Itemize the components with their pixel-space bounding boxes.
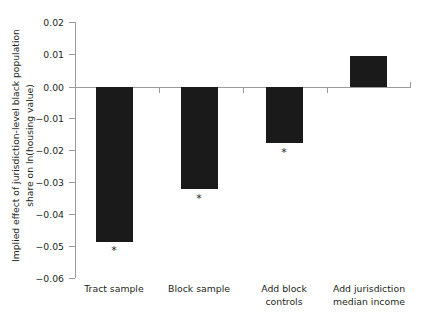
y-axis-tick-label: 0.00 <box>43 82 64 93</box>
significance-marker-add-block-controls: * <box>281 147 287 158</box>
x-axis-tick <box>243 88 244 93</box>
bar-add-jurisdiction-median-income <box>350 56 387 87</box>
y-axis-tick <box>69 150 75 151</box>
y-axis-tick <box>69 278 75 279</box>
category-label-line: Add block <box>240 283 328 296</box>
y-axis-title-line-1: Implied effect of jurisdiction-level bla… <box>9 29 23 262</box>
y-axis-tick-label: 0.02 <box>43 17 64 28</box>
y-axis-tick <box>69 214 75 215</box>
x-axis-category-label-tract-sample: Tract sample <box>69 283 159 296</box>
x-axis-category-label-add-block-controls: Add block controls <box>240 283 328 308</box>
y-axis-tick-label: −0.06 <box>36 273 65 284</box>
bar-add-block-controls <box>266 87 303 143</box>
bar-block-sample <box>181 87 218 189</box>
y-axis-tick-label: −0.02 <box>36 145 65 156</box>
y-axis-tick <box>69 54 75 55</box>
bar-tract-sample <box>96 87 133 242</box>
x-axis-category-label-add-jurisdiction-median-income: Add jurisdiction median income <box>317 283 421 308</box>
category-label-line: Tract sample <box>69 283 159 296</box>
y-axis-tick <box>69 182 75 183</box>
y-axis-tick-label: −0.04 <box>36 209 65 220</box>
x-axis-end-tick <box>410 82 411 88</box>
significance-marker-tract-sample: * <box>111 245 117 256</box>
y-axis-spine <box>75 22 76 278</box>
category-label-line: controls <box>240 296 328 309</box>
category-label-line: median income <box>317 296 421 309</box>
significance-marker-block-sample: * <box>196 193 202 204</box>
x-axis-tick <box>327 88 328 93</box>
x-axis-category-label-block-sample: Block sample <box>154 283 244 296</box>
category-label-line: Add jurisdiction <box>317 283 421 296</box>
y-axis-tick-label: −0.05 <box>36 241 65 252</box>
y-axis-tick-label: −0.01 <box>36 113 65 124</box>
y-axis-tick-label: −0.03 <box>36 177 65 188</box>
category-label-line: Block sample <box>154 283 244 296</box>
y-axis-tick-label: 0.01 <box>43 49 64 60</box>
y-axis-tick <box>69 246 75 247</box>
y-axis-tick <box>69 22 75 23</box>
y-axis-tick <box>69 118 75 119</box>
y-axis-title-line-2: share on ln(housing value) <box>22 29 36 262</box>
x-axis-tick <box>159 88 160 93</box>
bar-chart-figure: Implied effect of jurisdiction-level bla… <box>0 0 428 315</box>
